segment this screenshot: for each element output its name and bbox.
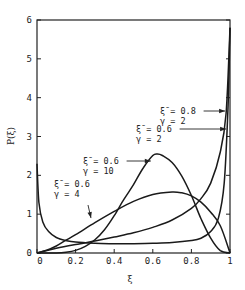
curves <box>37 28 230 253</box>
y-axis-label: P(ξ) <box>6 127 16 145</box>
x-tick-label: 0 <box>37 256 42 266</box>
y-tick-label: 6 <box>27 15 32 25</box>
curve-series-3 <box>37 28 230 244</box>
annotation-text: γ = 4 <box>54 189 80 199</box>
y-tick-label: 5 <box>27 54 32 64</box>
y-tick-label: 4 <box>27 93 32 103</box>
x-tick-label: 0.8 <box>183 256 199 266</box>
annotation-text: ξ̄ = 0.6 <box>136 124 172 134</box>
chart: 0123456 00.20.40.60.81 ξ̄ = 0.8γ = 2ξ̄ =… <box>0 0 245 290</box>
x-tick-label: 0.2 <box>67 256 83 266</box>
annotation-text: ξ̄ = 0.6 <box>54 179 90 189</box>
y-axis-ticks: 0123456 <box>27 15 230 258</box>
x-tick-label: 0.6 <box>145 256 161 266</box>
annotation-text: ξ̄ = 0.8 <box>160 106 196 116</box>
annotation-text: γ = 10 <box>83 166 114 176</box>
y-tick-label: 2 <box>27 170 32 180</box>
annotation-text: γ = 2 <box>136 134 162 144</box>
annotation-0: ξ̄ = 0.8γ = 2 <box>160 106 225 126</box>
x-tick-label: 0.4 <box>106 256 122 266</box>
arrow-icon <box>219 109 225 113</box>
annotation-text: ξ̄ = 0.6 <box>83 156 119 166</box>
y-tick-label: 0 <box>27 248 32 258</box>
annotation-3: ξ̄ = 0.6γ = 4 <box>54 179 92 218</box>
y-tick-label: 3 <box>27 132 32 142</box>
x-axis-label: ξ <box>128 274 133 284</box>
x-tick-label: 1 <box>227 256 232 266</box>
y-tick-label: 1 <box>27 209 32 219</box>
annotation-1: ξ̄ = 0.6γ = 2 <box>136 124 226 144</box>
